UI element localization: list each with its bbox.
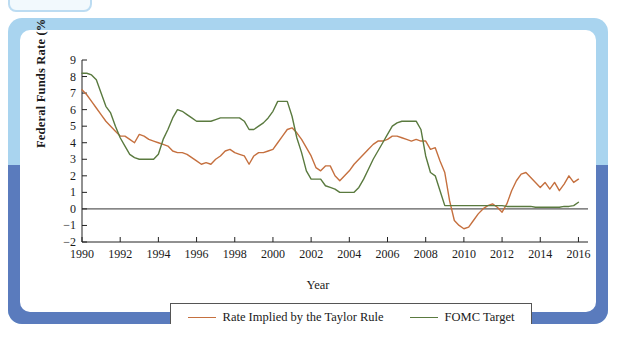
svg-text:0: 0 <box>70 202 76 216</box>
svg-text:1994: 1994 <box>146 247 170 261</box>
svg-text:2000: 2000 <box>261 247 285 261</box>
legend-label-fomc-target: FOMC Target <box>445 310 515 324</box>
svg-text:5: 5 <box>70 119 76 133</box>
figure-page: Federal Funds Rate (%) 9876543210−1−2199… <box>0 0 622 341</box>
svg-text:−1: −1 <box>63 218 76 232</box>
legend-entry-taylor-rule: Rate Implied by the Taylor Rule <box>188 310 384 324</box>
svg-text:3: 3 <box>70 152 76 166</box>
chart-legend: Rate Implied by the Taylor Rule FOMC Tar… <box>170 303 532 324</box>
x-axis-label: Year <box>40 278 596 293</box>
svg-text:2004: 2004 <box>337 247 361 261</box>
top-tab-decoration <box>8 0 92 12</box>
svg-text:1: 1 <box>70 185 76 199</box>
svg-text:9: 9 <box>70 53 76 67</box>
legend-swatch-taylor-rule <box>188 317 216 318</box>
plot-svg: 9876543210−1−219901992199419961998200020… <box>40 52 596 268</box>
legend-label-taylor-rule: Rate Implied by the Taylor Rule <box>223 310 384 324</box>
figure-card-inner: Federal Funds Rate (%) 9876543210−1−2199… <box>20 30 596 312</box>
figure-card-frame: Federal Funds Rate (%) 9876543210−1−2199… <box>8 18 608 324</box>
svg-text:2: 2 <box>70 169 76 183</box>
svg-text:6: 6 <box>70 103 76 117</box>
svg-text:1992: 1992 <box>108 247 132 261</box>
svg-text:2006: 2006 <box>376 247 400 261</box>
chart: Federal Funds Rate (%) 9876543210−1−2199… <box>40 52 596 268</box>
svg-text:7: 7 <box>70 86 76 100</box>
svg-text:2016: 2016 <box>566 247 590 261</box>
svg-text:2008: 2008 <box>414 247 438 261</box>
svg-text:4: 4 <box>70 136 76 150</box>
svg-text:2012: 2012 <box>490 247 514 261</box>
svg-text:2010: 2010 <box>452 247 476 261</box>
svg-text:1998: 1998 <box>223 247 247 261</box>
svg-text:2014: 2014 <box>528 247 552 261</box>
svg-text:8: 8 <box>70 70 76 84</box>
legend-swatch-fomc-target <box>410 317 438 318</box>
svg-text:1996: 1996 <box>185 247 209 261</box>
legend-entry-fomc-target: FOMC Target <box>410 310 515 324</box>
svg-text:1990: 1990 <box>70 247 94 261</box>
svg-text:2002: 2002 <box>299 247 323 261</box>
